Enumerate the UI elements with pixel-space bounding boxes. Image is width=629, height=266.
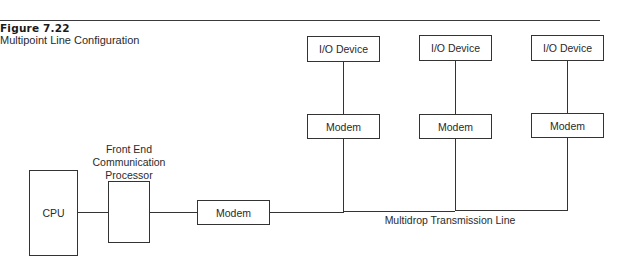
drop-modem-label-3: Modem [550, 120, 585, 132]
bus-segment-2 [455, 210, 568, 211]
io-device-label-2: I/O Device [431, 42, 480, 54]
cpu-fep-link [78, 212, 108, 213]
cpu-box: CPU [29, 170, 78, 256]
drop-modem-box-2: Modem [419, 114, 492, 139]
drop-modem-box-3: Modem [531, 113, 604, 138]
fep-label-line2: Communication [88, 156, 170, 169]
fep-label: Front End Communication Processor [88, 143, 170, 182]
figure-title: Multipoint Line Configuration [0, 34, 139, 46]
bus-segment-0 [270, 212, 344, 213]
front-end-processor-box [108, 181, 150, 243]
bus-segment-1 [343, 211, 455, 212]
io-device-box-1: I/O Device [307, 36, 380, 62]
figure-number: Figure 7.22 [0, 22, 70, 34]
drop-modem-label-2: Modem [438, 121, 473, 133]
io-device-box-2: I/O Device [419, 35, 492, 61]
fep-label-line1: Front End [88, 143, 170, 156]
drop-line-2 [455, 139, 456, 211]
drop-modem-box-1: Modem [307, 114, 380, 139]
cpu-label: CPU [42, 207, 64, 219]
host-modem-box: Modem [197, 200, 270, 225]
io-modem-link-1 [343, 62, 344, 114]
drop-line-1 [343, 139, 344, 212]
io-device-box-3: I/O Device [531, 35, 604, 61]
host-modem-label: Modem [216, 207, 251, 219]
io-modem-link-3 [567, 61, 568, 113]
top-rule [0, 20, 600, 21]
drop-modem-label-1: Modem [326, 121, 361, 133]
io-device-label-3: I/O Device [543, 42, 592, 54]
fep-modem-link [150, 212, 197, 213]
multidrop-line-label: Multidrop Transmission Line [380, 214, 520, 227]
io-device-label-1: I/O Device [319, 43, 368, 55]
drop-line-3 [567, 138, 568, 211]
io-modem-link-2 [455, 61, 456, 114]
